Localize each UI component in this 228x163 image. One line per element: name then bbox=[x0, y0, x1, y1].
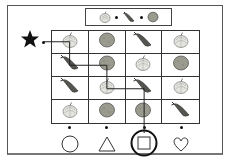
grid-cell[interactable] bbox=[162, 54, 199, 77]
grid-cell[interactable] bbox=[162, 77, 199, 100]
separator-dot bbox=[140, 16, 143, 19]
heart-icon bbox=[171, 134, 191, 154]
potato-icon bbox=[98, 54, 116, 76]
grid-cell[interactable] bbox=[126, 31, 163, 54]
exit-square[interactable] bbox=[126, 126, 163, 154]
carrot-icon bbox=[170, 101, 192, 123]
onion-icon bbox=[61, 101, 79, 123]
separator-dot bbox=[115, 16, 118, 19]
onion-icon bbox=[61, 31, 79, 53]
start-dot bbox=[42, 41, 45, 44]
grid-cell[interactable] bbox=[126, 54, 163, 77]
onion-icon bbox=[172, 77, 190, 99]
square-icon bbox=[130, 129, 158, 157]
pattern-sequence-box bbox=[85, 8, 172, 26]
grid-cell[interactable] bbox=[162, 31, 199, 54]
exit-dot bbox=[68, 126, 71, 129]
grid-cell[interactable] bbox=[52, 100, 89, 123]
carrot-icon bbox=[122, 11, 136, 23]
grid-cell[interactable] bbox=[52, 31, 89, 54]
potato-icon bbox=[134, 101, 152, 123]
grid-cell[interactable] bbox=[126, 100, 163, 123]
exit-triangle[interactable] bbox=[88, 126, 125, 154]
grid-cell[interactable] bbox=[89, 54, 126, 77]
grid-cell[interactable] bbox=[52, 54, 89, 77]
vegetable-grid bbox=[51, 30, 200, 124]
potato-icon bbox=[98, 31, 116, 53]
grid-cell[interactable] bbox=[52, 77, 89, 100]
carrot-icon bbox=[59, 54, 81, 76]
exit-shapes-row bbox=[51, 126, 200, 154]
grid-cell[interactable] bbox=[126, 77, 163, 100]
carrot-icon bbox=[59, 77, 81, 99]
exit-dot bbox=[143, 126, 146, 129]
circle-icon bbox=[60, 134, 80, 154]
potato-icon bbox=[98, 101, 116, 123]
onion-icon bbox=[99, 11, 111, 23]
star-icon bbox=[20, 29, 40, 49]
grid-cell[interactable] bbox=[89, 31, 126, 54]
grid-cell[interactable] bbox=[162, 100, 199, 123]
potato-icon bbox=[147, 11, 159, 23]
grid-cell[interactable] bbox=[89, 100, 126, 123]
triangle-icon bbox=[97, 134, 117, 154]
potato-icon bbox=[172, 54, 190, 76]
grid-cell[interactable] bbox=[89, 77, 126, 100]
exit-circle[interactable] bbox=[51, 126, 88, 154]
exit-dot bbox=[105, 126, 108, 129]
carrot-icon bbox=[132, 31, 154, 53]
exit-heart[interactable] bbox=[163, 126, 200, 154]
onion-icon bbox=[134, 54, 152, 76]
exit-dot bbox=[180, 126, 183, 129]
onion-icon bbox=[98, 77, 116, 99]
carrot-icon bbox=[132, 77, 154, 99]
onion-icon bbox=[172, 31, 190, 53]
